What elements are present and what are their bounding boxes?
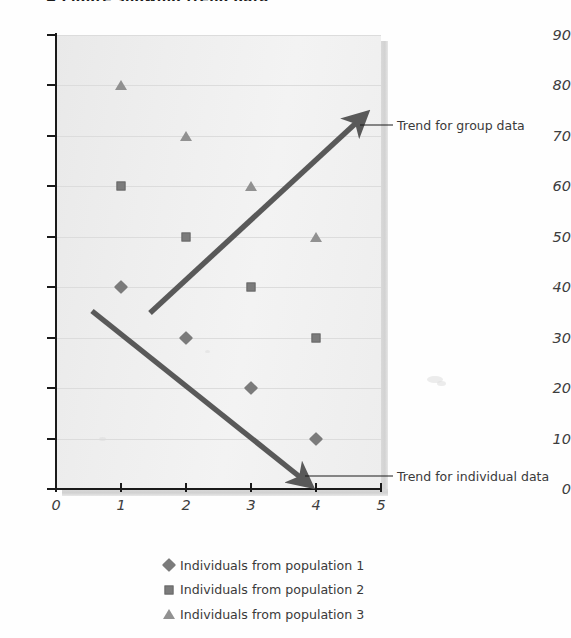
y-tick: [47, 135, 56, 137]
y-tick: [47, 387, 56, 389]
y-tick: [47, 185, 56, 187]
x-tick-label: 3: [236, 497, 266, 513]
y-tick-label: 80: [527, 77, 571, 93]
chart-legend: Individuals from population 1Individuals…: [160, 553, 420, 627]
y-tick-label: 10: [527, 431, 571, 447]
x-tick-label: 2: [171, 497, 201, 513]
y-tick-label: 70: [527, 128, 571, 144]
x-tick-label: 5: [366, 497, 396, 513]
square-marker: [312, 333, 321, 342]
plot-shadow-right: [381, 41, 388, 495]
square-marker: [160, 580, 180, 600]
y-tick-label: 20: [527, 380, 571, 396]
gridline: [56, 136, 381, 137]
paper-speck: [205, 350, 210, 353]
x-tick: [120, 483, 122, 492]
gridline: [56, 388, 381, 389]
paper-speck: [99, 437, 106, 441]
cut-off-title: A Figure showing trend data: [46, 0, 269, 1]
x-tick-label: 4: [301, 497, 331, 513]
y-tick: [47, 438, 56, 440]
square-marker: [182, 232, 191, 241]
y-tick: [47, 34, 56, 36]
y-tick-label: 30: [527, 330, 571, 346]
legend-item-label: Individuals from population 3: [180, 607, 364, 622]
y-tick: [47, 236, 56, 238]
gridline: [56, 287, 381, 288]
triangle-marker: [180, 131, 192, 141]
trend-group-label: Trend for group data: [397, 118, 525, 133]
x-tick: [185, 483, 187, 492]
y-tick: [47, 337, 56, 339]
x-tick: [315, 483, 317, 492]
legend-item: Individuals from population 1: [160, 553, 420, 578]
legend-item: Individuals from population 2: [160, 578, 420, 603]
paper-speck: [437, 381, 446, 386]
legend-item: Individuals from population 3: [160, 602, 420, 627]
triangle-marker: [245, 181, 257, 191]
x-axis-line: [55, 488, 382, 490]
x-tick-label: 1: [106, 497, 136, 513]
y-tick: [47, 84, 56, 86]
gridline: [56, 338, 381, 339]
y-tick-label: 60: [527, 178, 571, 194]
gridline: [56, 85, 381, 86]
plot-area: [56, 35, 381, 489]
legend-item-label: Individuals from population 1: [180, 558, 364, 573]
y-tick-label: 40: [527, 279, 571, 295]
square-marker: [117, 182, 126, 191]
trend-individual-label: Trend for individual data: [397, 469, 549, 484]
gridline: [56, 237, 381, 238]
y-tick-label: 90: [527, 27, 571, 43]
triangle-marker: [160, 604, 180, 624]
diamond-marker: [160, 555, 180, 575]
x-tick: [55, 483, 57, 492]
triangle-marker: [115, 80, 127, 90]
y-tick: [47, 286, 56, 288]
gridline: [56, 186, 381, 187]
chart-page: A Figure showing trend data 010203040506…: [0, 0, 571, 638]
triangle-marker: [310, 232, 322, 242]
x-tick: [380, 483, 382, 492]
x-tick-label: 0: [41, 497, 71, 513]
gridline: [56, 35, 381, 36]
legend-item-label: Individuals from population 2: [180, 582, 364, 597]
square-marker: [247, 283, 256, 292]
y-axis-line: [55, 33, 57, 491]
x-tick: [250, 483, 252, 492]
y-tick-label: 50: [527, 229, 571, 245]
